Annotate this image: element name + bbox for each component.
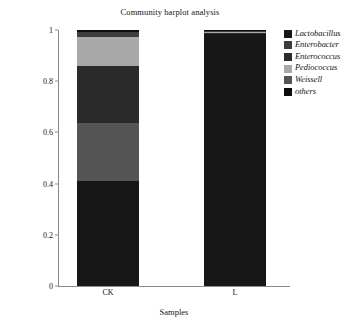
legend-item-others[interactable]: others xyxy=(284,86,363,98)
legend-label: Lactobacillus xyxy=(295,30,341,38)
bar-segment-weissell[interactable] xyxy=(77,123,139,181)
legend-item-enterobacter[interactable]: Enterobacter xyxy=(284,40,363,52)
legend-swatch-icon xyxy=(284,76,292,84)
bar-segment-lactobacillus[interactable] xyxy=(77,181,139,286)
legend-swatch-icon xyxy=(284,65,292,73)
bar-L[interactable] xyxy=(204,30,266,286)
x-axis-title: Samples xyxy=(58,307,290,317)
chart-legend: LactobacillusEnterobacterEnterococcusPed… xyxy=(284,28,363,98)
x-axis-line xyxy=(58,286,290,287)
bar-segment-others[interactable] xyxy=(204,30,266,31)
bar-segment-enterococcus[interactable] xyxy=(77,66,139,123)
x-tick-label-L: L xyxy=(204,288,266,297)
legend-item-pediococcus[interactable]: Pediococcus xyxy=(284,63,363,75)
chart-figure: Community barplot analysis Percent of co… xyxy=(0,0,363,328)
bar-segment-others[interactable] xyxy=(77,30,139,32)
legend-item-enterococcus[interactable]: Enterococcus xyxy=(284,51,363,63)
y-tick-mark xyxy=(55,183,58,184)
legend-label: Weissell xyxy=(295,76,322,84)
bar-segment-enterococcus[interactable] xyxy=(204,33,266,34)
legend-item-weissell[interactable]: Weissell xyxy=(284,74,363,86)
bar-segment-weissell[interactable] xyxy=(204,33,266,34)
legend-item-lactobacillus[interactable]: Lactobacillus xyxy=(284,28,363,40)
bar-CK[interactable] xyxy=(77,30,139,286)
y-tick-mark xyxy=(55,30,58,31)
plot-area: Percent of community abundance on Genus … xyxy=(58,30,288,286)
bar-segment-enterobacter[interactable] xyxy=(204,31,266,32)
legend-swatch-icon xyxy=(284,53,292,61)
bar-segment-pediococcus[interactable] xyxy=(77,37,139,66)
bar-segment-lactobacillus[interactable] xyxy=(204,34,266,286)
legend-label: others xyxy=(295,88,316,96)
legend-swatch-icon xyxy=(284,30,292,38)
y-tick-mark xyxy=(55,234,58,235)
x-tick-label-CK: CK xyxy=(77,288,139,297)
legend-label: Pediococcus xyxy=(295,64,337,72)
chart-title: Community barplot analysis xyxy=(60,7,280,17)
y-tick-mark xyxy=(55,81,58,82)
legend-swatch-icon xyxy=(284,41,292,49)
y-tick-mark xyxy=(55,132,58,133)
legend-label: Enterococcus xyxy=(295,53,340,61)
y-tick-mark xyxy=(55,286,58,287)
legend-label: Enterobacter xyxy=(295,41,339,49)
bar-segment-pediococcus[interactable] xyxy=(204,32,266,33)
bar-segment-enterobacter[interactable] xyxy=(77,32,139,37)
legend-swatch-icon xyxy=(284,88,292,96)
